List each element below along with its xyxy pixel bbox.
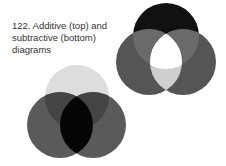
venn-diagrams — [0, 0, 226, 166]
subtractive-diagram — [27, 65, 126, 158]
additive-diagram — [116, 3, 216, 95]
